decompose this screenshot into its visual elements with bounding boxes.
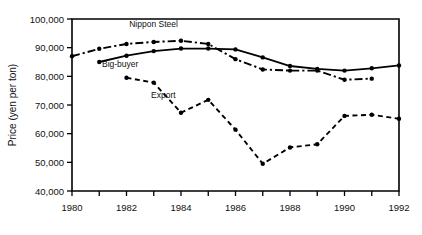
data-point [124,53,128,57]
data-point [370,66,374,70]
x-axis-tick-label: 1992 [388,202,409,213]
data-point [179,39,183,43]
data-point [152,40,156,44]
series-line-big-buyer [99,49,399,71]
chart-series [70,39,401,166]
data-point [342,114,346,118]
data-point [288,64,292,68]
series-label-big-buyer: Big-buyer [102,59,139,69]
data-point [233,57,237,61]
data-point [97,47,101,51]
y-axis-tick-label: 70,000 [35,100,64,111]
x-axis-tick-label: 1988 [279,202,300,213]
data-point [124,42,128,46]
data-point [152,80,156,84]
data-point [342,68,346,72]
y-axis-title: Price (yen per ton) [7,64,18,146]
series-label-nippon-steel: Nippon Steel [129,19,178,29]
data-point [233,127,237,131]
y-axis-tick-label: 50,000 [35,157,64,168]
data-point [124,76,128,80]
x-axis-tick-label: 1986 [225,202,246,213]
data-point [206,46,210,50]
x-axis-tick-label: 1982 [116,202,137,213]
chart-annotations: Nippon SteelBig-buyerExport [102,19,178,100]
data-point [179,46,183,50]
y-axis-tick-label: 60,000 [35,128,64,139]
chart-svg: 40,00050,00060,00070,00080,00090,000100,… [0,0,422,235]
data-point [152,49,156,53]
y-axis-tick-label: 90,000 [35,42,64,53]
price-line-chart: 40,00050,00060,00070,00080,00090,000100,… [0,0,422,235]
x-axis-tick-label: 1984 [170,202,191,213]
y-axis-tick-label: 100,000 [30,14,64,25]
series-label-export: Export [151,90,176,100]
data-point [315,142,319,146]
data-point [97,60,101,64]
data-point [179,111,183,115]
data-point [206,98,210,102]
data-point [370,113,374,117]
data-point [206,42,210,46]
data-point [397,117,401,121]
data-point [370,76,374,80]
y-axis-tick-label: 40,000 [35,186,64,197]
data-point [397,63,401,67]
data-point [233,47,237,51]
data-point [315,67,319,71]
data-point [342,78,346,82]
y-axis-tick-label: 80,000 [35,71,64,82]
data-point [261,162,265,166]
data-point [261,67,265,71]
data-point [261,55,265,59]
data-point [288,145,292,149]
data-point [288,68,292,72]
data-point [70,54,74,58]
x-axis-tick-label: 1980 [61,202,82,213]
x-axis-tick-label: 1990 [334,202,355,213]
